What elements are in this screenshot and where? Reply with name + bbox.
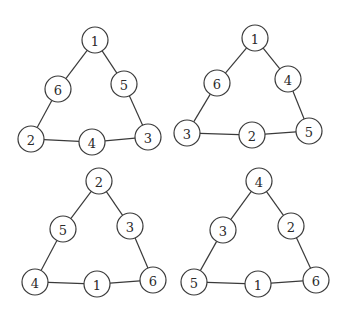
node-left-mid: 5 <box>50 216 76 242</box>
magic-triangle-diagrams: 165243164325253416432516 <box>0 0 347 316</box>
edge-left-mid-to-bottom-left <box>37 100 52 127</box>
node-right-mid: 3 <box>117 213 143 239</box>
triangle-bottom-right: 432516 <box>181 168 329 297</box>
node-label: 4 <box>284 73 292 88</box>
node-left-mid: 6 <box>45 76 71 102</box>
edge-top-to-right-mid <box>263 48 280 69</box>
node-label: 4 <box>88 136 96 151</box>
node-right-mid: 2 <box>278 213 304 239</box>
node-top: 4 <box>246 168 272 194</box>
node-label: 3 <box>219 224 227 239</box>
edge-top-to-left-mid <box>225 48 246 73</box>
edge-top-to-right-mid <box>267 192 284 216</box>
edge-bottom-mid-to-bottom-right <box>110 281 140 283</box>
node-bottom-mid: 1 <box>84 271 110 297</box>
triangle-top-left: 165243 <box>18 27 161 155</box>
edge-bottom-mid-to-bottom-right <box>271 281 303 283</box>
edge-left-mid-to-bottom-left <box>200 241 216 270</box>
edge-right-mid-to-bottom-right <box>296 238 310 268</box>
edge-top-to-right-mid <box>102 51 117 73</box>
node-label: 3 <box>126 220 134 235</box>
node-label: 1 <box>91 34 99 49</box>
node-top: 1 <box>82 27 108 53</box>
node-label: 1 <box>93 278 101 293</box>
node-right-mid: 4 <box>275 66 301 92</box>
node-bottom-mid: 4 <box>79 129 105 155</box>
node-label: 6 <box>54 83 62 98</box>
node-label: 5 <box>120 78 128 93</box>
edge-top-to-left-mid <box>71 191 91 218</box>
edge-top-to-right-mid <box>106 192 122 216</box>
node-bottom-right: 3 <box>135 124 161 150</box>
triangle-bottom-left: 253416 <box>22 168 166 297</box>
node-bottom-mid: 2 <box>239 122 265 148</box>
node-top: 1 <box>242 25 268 51</box>
edge-top-to-left-mid <box>66 50 87 78</box>
edge-bottom-mid-to-bottom-right <box>265 132 296 134</box>
edge-bottom-left-to-bottom-mid <box>48 282 84 283</box>
node-top: 2 <box>86 168 112 194</box>
node-label: 2 <box>27 133 35 148</box>
node-label: 6 <box>149 274 157 289</box>
node-bottom-right: 5 <box>296 118 322 144</box>
node-label: 2 <box>95 175 103 190</box>
edge-bottom-mid-to-bottom-right <box>105 138 135 141</box>
edge-left-mid-to-bottom-left <box>41 240 57 270</box>
node-label: 2 <box>248 129 256 144</box>
node-label: 4 <box>255 175 263 190</box>
node-bottom-right: 6 <box>303 267 329 293</box>
node-label: 5 <box>59 223 67 238</box>
node-right-mid: 5 <box>111 71 137 97</box>
node-label: 1 <box>251 32 259 47</box>
node-label: 3 <box>183 127 191 142</box>
edge-left-mid-to-bottom-left <box>194 94 211 122</box>
node-label: 1 <box>254 278 262 293</box>
node-label: 3 <box>144 131 152 146</box>
node-bottom-left: 4 <box>22 269 48 295</box>
edge-bottom-left-to-bottom-mid <box>207 282 245 283</box>
node-label: 6 <box>213 77 221 92</box>
edge-top-to-left-mid <box>231 191 252 219</box>
node-label: 5 <box>190 276 198 291</box>
node-bottom-left: 2 <box>18 126 44 152</box>
edge-right-mid-to-bottom-right <box>293 91 304 119</box>
node-label: 2 <box>287 220 295 235</box>
edge-bottom-left-to-bottom-mid <box>44 140 79 142</box>
node-label: 6 <box>312 274 320 289</box>
triangle-top-right: 164325 <box>174 25 322 148</box>
node-label: 4 <box>31 276 39 291</box>
node-bottom-mid: 1 <box>245 271 271 297</box>
edge-right-mid-to-bottom-right <box>129 96 142 125</box>
node-left-mid: 6 <box>204 70 230 96</box>
node-bottom-right: 6 <box>140 267 166 293</box>
edge-bottom-left-to-bottom-mid <box>200 133 239 134</box>
edge-right-mid-to-bottom-right <box>135 238 148 268</box>
node-label: 5 <box>305 125 313 140</box>
node-bottom-left: 5 <box>181 269 207 295</box>
node-bottom-left: 3 <box>174 120 200 146</box>
node-left-mid: 3 <box>210 217 236 243</box>
